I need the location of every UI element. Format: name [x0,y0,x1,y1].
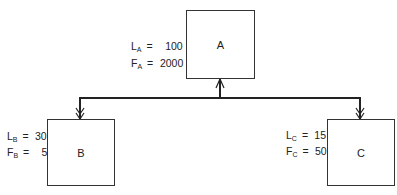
node-a-box: A [186,10,255,79]
node-a-label: A [187,39,254,51]
node-c-box: C [327,119,395,186]
node-c-param-f: FC=50 [286,145,327,158]
node-c-param-l: LC=15 [286,129,326,142]
node-b-param-l: LB=30 [7,130,47,143]
node-b-label: B [48,147,114,159]
node-b-box: B [47,119,115,186]
node-a-param-f: FA=2000 [131,57,183,70]
node-a-param-l: LA=100 [131,40,183,53]
node-b-param-f: FB=5 [7,146,47,159]
node-c-label: C [328,147,394,159]
